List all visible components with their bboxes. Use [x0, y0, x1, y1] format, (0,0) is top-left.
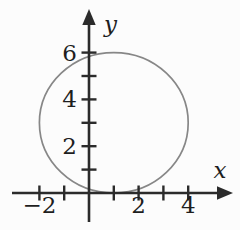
y-axis-tick-label-4: 4 — [62, 86, 77, 112]
y-axis-tick-label-2: 2 — [62, 133, 77, 159]
y-axis-arrowhead — [82, 9, 95, 25]
x-axis-tick-label--2: −2 — [22, 192, 56, 218]
x-axis-tick-label-2: 2 — [131, 192, 146, 218]
x-axis-tick-label-4: 4 — [181, 192, 196, 218]
graph-svg: −224246xy — [0, 0, 240, 230]
figure-canvas: −224246xy — [0, 0, 240, 230]
x-axis-label: x — [214, 157, 227, 183]
x-axis-arrowhead — [217, 186, 233, 199]
y-axis-label: y — [103, 11, 118, 37]
circle-curve — [39, 53, 188, 193]
y-axis-tick-label-6: 6 — [62, 40, 77, 66]
